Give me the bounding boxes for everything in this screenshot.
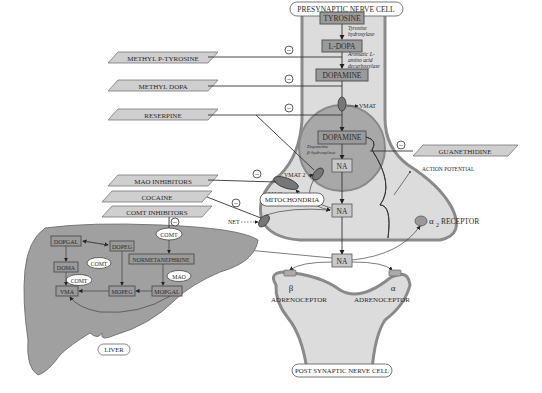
svg-text:MOPEG: MOPEG <box>111 289 133 295</box>
liver-doma-box: DOMA <box>54 262 78 272</box>
inhibition-symbol: − <box>253 170 261 179</box>
inhibition-symbol: − <box>285 75 293 84</box>
drug-methyl-dopa: METHYL DOPA <box>108 80 218 91</box>
inhibition-symbol: − <box>285 46 293 55</box>
mitochondria: MITOCHONDRIA <box>260 193 324 206</box>
svg-text:GUANETHIDINE: GUANETHIDINE <box>439 148 492 156</box>
svg-text:RECEPTOR: RECEPTOR <box>441 217 479 226</box>
beta-symbol: β <box>289 283 294 293</box>
svg-text:COMT: COMT <box>71 278 88 284</box>
dopamine-box: DOPAMINE <box>316 69 368 81</box>
svg-text:α: α <box>429 216 434 226</box>
liver <box>24 224 258 375</box>
svg-text:MAO INHIBITORS: MAO INHIBITORS <box>134 178 192 186</box>
inhibition-symbol: − <box>285 104 293 113</box>
beta-adrenoceptor <box>284 270 296 276</box>
svg-text:LIVER: LIVER <box>104 346 124 353</box>
svg-text:β-hydroxylase: β-hydroxylase <box>306 150 336 155</box>
postsynaptic-cell <box>273 272 410 370</box>
inhibition-symbol: − <box>171 218 179 227</box>
svg-text:COMT: COMT <box>91 261 108 267</box>
svg-text:COMT: COMT <box>160 232 178 238</box>
inhibition-symbol: − <box>232 199 240 208</box>
tyrosine-box: TYROSINE <box>320 12 364 24</box>
vmat-label: VMAT <box>359 103 376 109</box>
liver-comt-enzyme-lower: COMT <box>66 275 92 286</box>
liver-normetanephrine-box: NORMETANEPHRINE <box>129 254 194 264</box>
synaptic-na-box: NA <box>332 254 352 267</box>
svg-text:NA: NA <box>337 257 348 266</box>
svg-text:NORMETANEPHRINE: NORMETANEPHRINE <box>133 257 190 263</box>
svg-text:COCAINE: COCAINE <box>141 194 172 202</box>
alpha-adrenoceptor-label: ADRENOCEPTOR <box>354 296 410 304</box>
svg-text:decarboxylase: decarboxylase <box>348 63 380 69</box>
svg-text:DOMA: DOMA <box>57 265 76 271</box>
svg-text:DOPGAL: DOPGAL <box>54 239 79 245</box>
svg-text:POST SYNAPTIC NERVE CELL: POST SYNAPTIC NERVE CELL <box>295 367 389 374</box>
liver-dopgal-box: DOPGAL <box>51 236 81 246</box>
svg-text:DOPAMINE: DOPAMINE <box>323 133 362 142</box>
svg-text:−: − <box>287 75 292 84</box>
liver-mao-enzyme: MAO <box>167 271 191 282</box>
liver-comt-enzyme-middle: COMT <box>87 258 111 269</box>
svg-text:hydroxylase: hydroxylase <box>348 31 375 37</box>
vesicle-dopamine-box: DOPAMINE <box>318 131 366 144</box>
action-potential-label: ACTION POTENTIAL <box>422 166 475 172</box>
svg-text:−: − <box>255 170 260 179</box>
svg-text:MAO: MAO <box>172 274 186 280</box>
drug-comt-inhibitors: COMT INHIBITORS <box>102 206 212 217</box>
liver-mopgal-box: MOPGAL <box>152 286 182 296</box>
liver-dopeg-box: DOPEG <box>110 241 134 251</box>
svg-text:METHYL DOPA: METHYL DOPA <box>138 83 187 91</box>
svg-text:DOPAMINE: DOPAMINE <box>323 71 362 80</box>
svg-text:−: − <box>399 141 404 150</box>
drug-cocaine: COCAINE <box>102 191 212 202</box>
svg-text:−: − <box>287 104 292 113</box>
alpha-adrenoceptor <box>389 270 401 276</box>
noradrenergic-synapse-diagram: PRESYNAPTIC NERVE CELL TYROSINE Tyrosine… <box>0 0 542 393</box>
drug-mao-inhibitors: MAO INHIBITORS <box>108 175 218 186</box>
alpha-symbol: α <box>391 283 396 293</box>
liver-comt-enzyme-top: COMT <box>156 228 182 240</box>
liver-mopeg-box: MOPEG <box>109 286 135 296</box>
svg-text:VMA: VMA <box>60 289 75 295</box>
cytosol-na-box: NA <box>332 204 352 217</box>
svg-text:NA: NA <box>337 207 348 216</box>
svg-text:−: − <box>173 218 178 227</box>
svg-text:2: 2 <box>436 222 439 228</box>
svg-text:RESERPINE: RESERPINE <box>144 112 181 120</box>
svg-text:DOPEG: DOPEG <box>112 244 133 250</box>
svg-text:−: − <box>234 199 239 208</box>
postsynaptic-title: POST SYNAPTIC NERVE CELL <box>292 364 392 377</box>
drug-guanethidine: GUANETHIDINE <box>413 145 518 156</box>
svg-text:TYROSINE: TYROSINE <box>323 14 361 23</box>
vesicle-na-box: NA <box>332 159 352 172</box>
svg-text:NA: NA <box>337 162 348 171</box>
liver-title: LIVER <box>98 344 130 355</box>
vmat2-label: VMAT 2 <box>284 172 305 178</box>
drug-reserpine: RESERPINE <box>108 109 218 120</box>
svg-text:COMT INHIBITORS: COMT INHIBITORS <box>126 209 187 217</box>
svg-text:−: − <box>287 46 292 55</box>
vmat-transporter <box>338 97 346 111</box>
dbh-label: Dopamine <box>306 144 329 149</box>
inhibition-symbol: − <box>397 141 405 150</box>
svg-text:MOPGAL: MOPGAL <box>154 289 180 295</box>
net-label: NET <box>228 219 240 225</box>
svg-text:L-DOPA: L-DOPA <box>329 42 356 51</box>
svg-text:MITOCHONDRIA: MITOCHONDRIA <box>265 196 320 204</box>
beta-adrenoceptor-label: ADRENOCEPTOR <box>271 296 327 304</box>
svg-text:METHYL P-TYROSINE: METHYL P-TYROSINE <box>127 55 199 63</box>
drug-methyl-p-tyrosine: METHYL P-TYROSINE <box>108 52 218 63</box>
liver-vma-box: VMA <box>56 286 78 296</box>
